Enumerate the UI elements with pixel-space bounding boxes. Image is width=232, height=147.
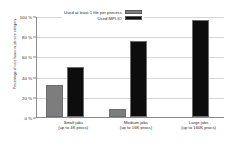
y-tick-label: 40 % <box>22 75 32 80</box>
y-tick-label: 80 % <box>22 35 32 40</box>
y-tick-label: 60 % <box>22 55 32 60</box>
y-tick-label: 100 % <box>20 15 32 20</box>
bar-series-b <box>130 41 147 117</box>
x-axis-label-line2: (up to 160K procs) <box>168 125 230 130</box>
y-axis-ticks: 0 %20 %40 %60 %80 %100 % <box>0 17 36 118</box>
x-axis-label: Medium jobs(up to 16K procs) <box>105 120 167 131</box>
plot-area <box>36 17 224 118</box>
legend-item-series-b: Used MPI-IO <box>64 15 142 21</box>
legend-swatch-series-b <box>125 16 142 19</box>
y-tick-label: 0 % <box>24 116 32 121</box>
legend-swatch-series-a <box>125 10 142 13</box>
bar-series-a <box>109 109 126 117</box>
x-axis-label-line1: Large jobs <box>189 120 209 125</box>
x-axis-label-line1: Medium jobs <box>124 120 148 125</box>
bar-chart: Percentage of core hours in job size cat… <box>0 0 232 147</box>
y-tick-label: 20 % <box>22 95 32 100</box>
x-axis-label-line2: (up to 16K procs) <box>105 125 167 130</box>
bar-series-b <box>192 20 209 117</box>
bar-group <box>100 17 163 117</box>
x-axis-label: Large jobs(up to 160K procs) <box>168 120 230 131</box>
chart-legend: Used at least 1 file per process Used MP… <box>62 8 144 22</box>
x-axis-label: Small jobs(up to 4K procs) <box>42 120 104 131</box>
x-axis-label-line1: Small jobs <box>64 120 83 125</box>
bar-group <box>37 17 100 117</box>
bar-group <box>162 17 225 117</box>
bar-series-a <box>46 85 63 117</box>
legend-label-series-a: Used at least 1 file per process <box>64 10 122 15</box>
x-axis-labels: Small jobs(up to 4K procs)Medium jobs(up… <box>36 120 224 144</box>
x-axis-label-line2: (up to 4K procs) <box>42 125 104 130</box>
bar-series-b <box>67 67 84 118</box>
legend-label-series-b: Used MPI-IO <box>98 16 122 21</box>
bars-layer <box>37 17 224 117</box>
